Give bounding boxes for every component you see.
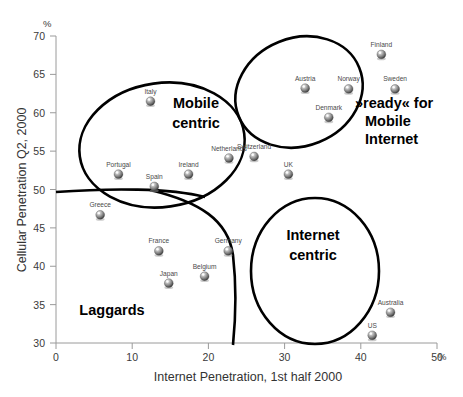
- marker-sphere: [150, 182, 159, 191]
- y-tick-label: 65: [33, 68, 45, 80]
- data-point-label: Germany: [215, 237, 243, 245]
- annot-mobile-line-2: centric: [172, 115, 220, 131]
- x-tick-label: 0: [53, 351, 59, 363]
- data-point: Denmark: [315, 104, 342, 123]
- data-point-label: Switzerland: [237, 143, 271, 150]
- data-point-label: Italy: [144, 88, 157, 96]
- data-point-label: Australia: [378, 299, 404, 306]
- data-point: France: [149, 237, 170, 256]
- y-tick-label: 40: [33, 260, 45, 272]
- y-tick-label: 45: [33, 222, 45, 234]
- marker-sphere: [324, 113, 333, 122]
- marker-sphere: [391, 85, 400, 94]
- data-point: Sweden: [383, 75, 407, 94]
- annotation-laggards: Laggards: [79, 302, 144, 318]
- y-tick-label: 70: [33, 30, 45, 42]
- data-point: Greece: [89, 201, 111, 220]
- marker-sphere: [184, 170, 193, 179]
- annotation-ready-for-mobile-internet: »ready« for Mobile Internet: [355, 95, 434, 147]
- marker-highlight: [392, 86, 394, 88]
- y-tick-label: 50: [33, 184, 45, 196]
- marker-highlight: [148, 98, 150, 100]
- marker-sphere: [301, 84, 310, 93]
- marker-sphere: [368, 331, 377, 340]
- x-tick-label: 40: [355, 351, 367, 363]
- data-point-label: Portugal: [106, 161, 131, 169]
- data-point: Finland: [371, 41, 393, 60]
- annot-internet-line-1: Internet: [286, 227, 339, 243]
- marker-highlight: [379, 52, 381, 54]
- marker-highlight: [326, 114, 328, 116]
- data-point: Italy: [144, 88, 157, 107]
- data-point-label: Japan: [160, 270, 178, 278]
- plot-area: 303540455055606570 01020304050 % % Cellu…: [0, 0, 463, 397]
- data-point: UK: [284, 161, 294, 180]
- data-point-label: Norway: [337, 75, 360, 83]
- data-point: Norway: [337, 75, 360, 94]
- x-tick-label: 10: [126, 351, 138, 363]
- y-tick-label: 30: [33, 337, 45, 349]
- marker-sphere: [377, 50, 386, 59]
- data-point-label: Austria: [295, 75, 316, 82]
- marker-highlight: [202, 273, 204, 275]
- data-point-label: Spain: [146, 173, 163, 181]
- data-point-label: Belgium: [193, 263, 217, 271]
- y-tick-label: 55: [33, 145, 45, 157]
- x-tick-label: 30: [279, 351, 291, 363]
- data-point-label: UK: [284, 161, 294, 168]
- marker-highlight: [166, 280, 168, 282]
- data-point: Austria: [295, 75, 316, 94]
- annotation-internet-centric: Internet centric: [286, 227, 339, 263]
- data-point-label: Ireland: [179, 161, 199, 168]
- y-axis: 303540455055606570: [33, 30, 56, 349]
- marker-highlight: [226, 155, 228, 157]
- annotation-mobile-centric: Mobile centric: [172, 95, 220, 131]
- data-point: Germany: [215, 237, 243, 256]
- data-point-label: Greece: [89, 201, 111, 208]
- laggards-divider-upper: [56, 189, 205, 197]
- y-axis-title: Cellular Penetration Q2, 2000: [15, 108, 29, 273]
- data-point-label: US: [368, 322, 378, 329]
- y-axis-unit: %: [43, 18, 52, 29]
- marker-highlight: [152, 184, 154, 186]
- x-axis-unit: %: [438, 351, 447, 362]
- marker-highlight: [116, 171, 118, 173]
- marker-highlight: [156, 248, 158, 250]
- marker-sphere: [96, 210, 105, 219]
- marker-highlight: [186, 171, 188, 173]
- data-point: Ireland: [179, 161, 199, 180]
- marker-highlight: [370, 332, 372, 334]
- marker-sphere: [224, 247, 233, 256]
- marker-sphere: [225, 154, 234, 163]
- marker-sphere: [146, 97, 155, 106]
- data-point: Portugal: [106, 161, 131, 180]
- marker-highlight: [252, 154, 254, 156]
- annot-ready-line-2: Mobile: [365, 113, 411, 129]
- scatter-chart: 303540455055606570 01020304050 % % Cellu…: [0, 0, 463, 397]
- data-point-label: France: [149, 237, 170, 244]
- data-point-label: Denmark: [315, 104, 342, 111]
- internet-centric-outline: [251, 198, 379, 344]
- annot-ready-line-3: Internet: [365, 131, 418, 147]
- marker-highlight: [388, 309, 390, 311]
- y-tick-label: 35: [33, 299, 45, 311]
- marker-highlight: [286, 171, 288, 173]
- marker-sphere: [200, 272, 209, 281]
- data-point-label: Sweden: [383, 75, 407, 82]
- marker-sphere: [284, 170, 293, 179]
- x-axis: 01020304050: [53, 343, 443, 363]
- data-point-label: Finland: [371, 41, 393, 48]
- marker-highlight: [98, 212, 100, 214]
- annot-internet-line-2: centric: [289, 247, 337, 263]
- marker-highlight: [226, 248, 228, 250]
- data-point: Australia: [378, 299, 404, 318]
- marker-sphere: [164, 279, 173, 288]
- marker-sphere: [344, 85, 353, 94]
- y-tick-label: 60: [33, 107, 45, 119]
- marker-highlight: [346, 86, 348, 88]
- marker-sphere: [114, 170, 123, 179]
- marker-highlight: [303, 85, 305, 87]
- marker-sphere: [386, 308, 395, 317]
- annot-ready-line-1: »ready« for: [355, 95, 434, 111]
- data-point: US: [368, 322, 378, 341]
